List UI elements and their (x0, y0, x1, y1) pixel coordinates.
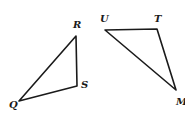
vertex-label-u: U (100, 13, 110, 24)
triangle-qrs: R S Q (9, 19, 88, 110)
triangle-utm-outline (105, 29, 176, 90)
triangle-qrs-outline (19, 36, 77, 101)
triangle-utm: U T M (100, 13, 185, 107)
geometry-figure: R S Q U T M (0, 0, 185, 120)
vertex-label-q: Q (9, 99, 18, 110)
vertex-label-s: S (81, 79, 88, 90)
vertex-label-t: T (154, 13, 163, 24)
vertex-label-r: R (72, 19, 81, 30)
vertex-label-m: M (175, 96, 185, 107)
